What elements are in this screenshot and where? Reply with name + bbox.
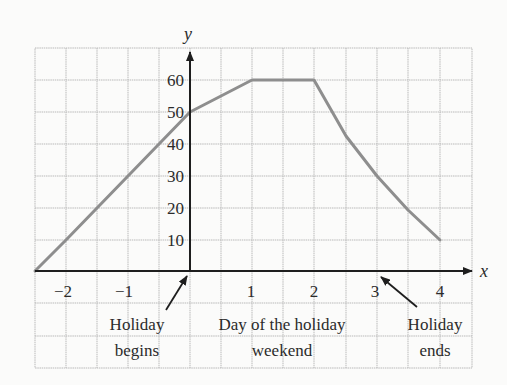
y-tick-60: 60 <box>167 71 184 90</box>
x-tick-1: 1 <box>247 282 256 301</box>
x-tick-4: 4 <box>436 282 445 301</box>
x-tick-3: 3 <box>371 282 380 301</box>
holiday-ends-line2: ends <box>419 341 450 360</box>
x-axis-label: x <box>479 261 488 281</box>
x-tick-m1: −1 <box>115 282 133 301</box>
holiday-begins-line1: Holiday <box>110 315 165 334</box>
y-tick-50: 50 <box>167 103 184 122</box>
y-axis-label: y <box>182 24 192 44</box>
x-caption-line1: Day of the holiday <box>219 315 346 334</box>
x-tick-2: 2 <box>310 282 319 301</box>
y-tick-10: 10 <box>167 231 184 250</box>
y-tick-labels: 60 50 40 30 20 10 <box>167 71 184 250</box>
y-tick-40: 40 <box>167 135 184 154</box>
y-tick-20: 20 <box>167 199 184 218</box>
y-tick-30: 30 <box>167 167 184 186</box>
x-caption-line2: weekend <box>252 341 313 360</box>
holiday-begins-arrow <box>166 276 187 310</box>
x-tick-labels: −2 −1 1 2 3 4 <box>54 282 445 301</box>
holiday-chart: x y 60 50 40 30 20 10 −2 −1 1 2 3 4 Holi… <box>0 0 507 385</box>
holiday-ends-line1: Holiday <box>408 315 463 334</box>
x-tick-m2: −2 <box>54 282 72 301</box>
holiday-begins-line2: begins <box>115 341 159 360</box>
